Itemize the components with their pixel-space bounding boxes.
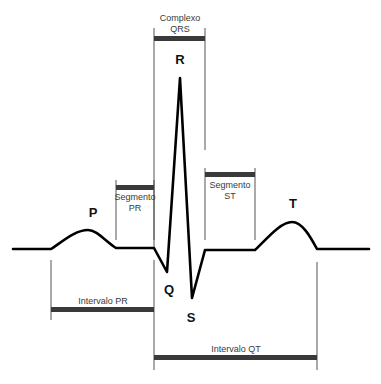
t-wave-label: T — [286, 196, 300, 211]
qrs-complex-label: Complexo QRS — [150, 13, 210, 35]
qt-interval-bar — [154, 355, 317, 360]
st-segment-bar — [205, 172, 255, 177]
pr-segment-label: Segmento PR — [106, 192, 164, 214]
q-wave-label: Q — [162, 282, 176, 297]
pr-interval-label: Intervalo PR — [62, 296, 144, 307]
qt-interval-label: Intervalo QT — [196, 344, 276, 355]
st-segment-label: Segmento ST — [200, 180, 260, 202]
r-wave-label: R — [173, 52, 187, 67]
ecg-diagram — [0, 0, 381, 384]
pr-interval-bar — [51, 307, 154, 312]
pr-segment-bar — [116, 185, 154, 190]
p-wave-label: P — [86, 205, 100, 220]
qrs-complex-bar — [154, 36, 205, 41]
s-wave-label: S — [184, 310, 198, 325]
ecg-waveform — [13, 78, 369, 298]
